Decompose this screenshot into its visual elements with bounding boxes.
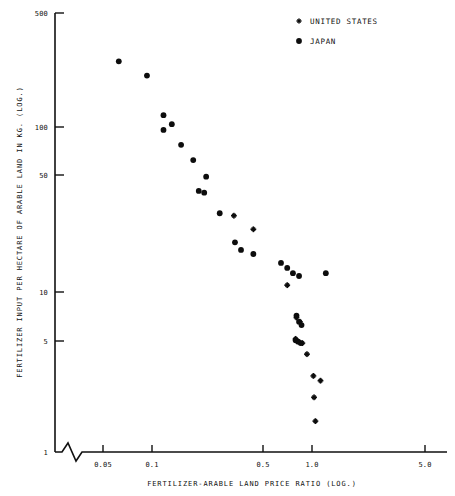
- y-tick-marks: [55, 13, 64, 341]
- data-point-star: [311, 394, 317, 400]
- data-point-circle: [278, 260, 284, 266]
- series-united-states-points: [231, 213, 323, 424]
- x-axis-line: [55, 443, 447, 461]
- legend-entry-japan: JAPAN: [296, 37, 336, 46]
- data-point-circle: [161, 127, 167, 133]
- chart-figure: 500 100 50 10 5 1 0.05 0.1 0.5 1.0 5.0 F…: [0, 0, 455, 496]
- y-tick-label-10: 10: [39, 289, 48, 297]
- y-axis-title: FERTILIZER INPUT PER HECTARE OF ARABLE L…: [16, 86, 24, 378]
- data-point-circle: [190, 157, 196, 163]
- data-point-circle: [284, 265, 290, 271]
- data-point-star: [284, 282, 290, 288]
- data-point-circle: [178, 142, 184, 148]
- legend-label-united-states: UNITED STATES: [310, 17, 378, 26]
- data-point-circle: [250, 251, 256, 257]
- data-point-circle: [290, 270, 296, 276]
- x-axis-title: FERTILIZER-ARABLE LAND PRICE RATIO (LOG.…: [147, 480, 357, 488]
- x-tick-marks: [103, 445, 425, 452]
- data-point-star: [318, 378, 324, 384]
- data-point-star: [231, 213, 237, 219]
- data-point-circle: [116, 58, 122, 64]
- legend-entry-united-states: UNITED STATES: [296, 17, 377, 26]
- data-point-star: [250, 226, 256, 232]
- data-point-circle: [217, 210, 223, 216]
- legend-label-japan: JAPAN: [310, 37, 336, 46]
- data-point-circle: [203, 174, 209, 180]
- data-point-circle: [161, 112, 167, 118]
- data-point-circle: [169, 121, 175, 127]
- data-point-circle: [238, 247, 244, 253]
- y-tick-label-50: 50: [39, 172, 48, 180]
- data-point-star: [310, 373, 316, 379]
- data-point-star: [312, 418, 318, 424]
- x-tick-label-0.1: 0.1: [145, 461, 158, 469]
- data-point-circle: [296, 273, 302, 279]
- series-japan-points: [116, 58, 329, 346]
- x-tick-label-1.0: 1.0: [305, 461, 318, 469]
- chart-legend: UNITED STATES JAPAN: [296, 17, 378, 46]
- x-tick-labels: 0.05 0.1 0.5 1.0 5.0: [94, 461, 431, 469]
- y-tick-labels: 500 100 50 10 5 1: [35, 10, 48, 457]
- x-tick-label-0.5: 0.5: [256, 461, 269, 469]
- y-tick-label-500: 500: [35, 10, 48, 18]
- x-tick-label-0.05: 0.05: [94, 461, 112, 469]
- circle-icon: [296, 38, 302, 44]
- star-icon: [296, 18, 301, 23]
- scatter-plot-svg: 500 100 50 10 5 1 0.05 0.1 0.5 1.0 5.0 F…: [0, 0, 455, 496]
- data-point-circle: [201, 190, 207, 196]
- y-tick-label-1: 1: [44, 449, 48, 457]
- data-point-circle: [196, 188, 202, 194]
- y-tick-label-5: 5: [44, 338, 48, 346]
- y-tick-label-100: 100: [35, 124, 48, 132]
- data-point-circle: [323, 270, 329, 276]
- data-point-circle: [144, 73, 150, 79]
- data-point-circle: [232, 239, 238, 245]
- x-tick-label-5.0: 5.0: [418, 461, 431, 469]
- data-point-star: [304, 351, 310, 357]
